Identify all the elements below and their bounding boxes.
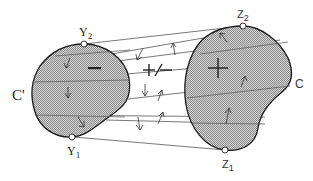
plus-minus-sign — [143, 64, 172, 76]
point-y1 — [69, 134, 75, 140]
point-y2 — [81, 41, 87, 47]
point-z1 — [222, 147, 228, 153]
label-y1: Y1 — [67, 144, 80, 160]
label-z1: Z1 — [222, 158, 234, 173]
point-z2 — [240, 23, 246, 29]
label-c: C — [295, 77, 304, 91]
right-region-c — [185, 26, 292, 150]
minus-sign — [88, 67, 101, 69]
label-z2: Z2 — [237, 8, 249, 23]
diagram-canvas: C' C Y2 Y1 Z2 Z1 — [0, 0, 313, 181]
left-region-c-prime — [32, 44, 130, 137]
label-y2: Y2 — [79, 25, 92, 41]
label-c-prime: C' — [12, 87, 25, 103]
